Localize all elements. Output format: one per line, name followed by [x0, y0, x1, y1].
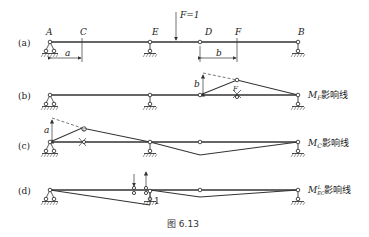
panel-a-label: (a)	[18, 38, 30, 48]
dim-a-label: a	[44, 125, 49, 135]
pin-support-icon	[41, 95, 58, 110]
load-label: F=1	[179, 10, 200, 20]
title-mc: MC影响线	[307, 137, 349, 149]
pin-support-icon	[41, 142, 58, 157]
panel-a: (a) A C E D F B F=1 a b	[18, 10, 305, 62]
pin-support-icon	[41, 190, 58, 205]
title-mec: MECL影响线	[307, 184, 351, 196]
panel-d: (d) 1 MECL影响线	[18, 172, 351, 206]
point-f-label: F	[232, 85, 239, 93]
influence-line-figure: (a) A C E D F B F=1 a b (b)	[0, 0, 369, 237]
roller-support-icon	[291, 142, 305, 157]
dim-b-label: b	[216, 48, 222, 58]
roller-support-icon	[291, 190, 305, 205]
hinge-icon	[148, 40, 152, 44]
point-c-label: C	[80, 27, 87, 37]
roller-support-icon	[291, 95, 305, 110]
hinge-icon	[48, 40, 52, 44]
dim-b-label: b	[194, 79, 200, 89]
hinge-icon	[296, 40, 300, 44]
roller-support-icon	[143, 42, 157, 57]
roller-support-icon	[291, 42, 305, 57]
panel-b-label: (b)	[18, 91, 31, 101]
influence-line	[200, 80, 298, 95]
panel-c: (c) a C MC影响线	[18, 118, 349, 157]
point-b-label: B	[297, 27, 305, 37]
roller-support-icon	[143, 95, 157, 110]
point-a-label: A	[45, 27, 53, 37]
panel-d-label: (d)	[18, 186, 31, 196]
point-f-label: F	[234, 27, 242, 37]
point-d-label: D	[204, 27, 212, 37]
dim-a-label: a	[65, 48, 70, 58]
pin-support-icon	[41, 42, 58, 57]
point-e-label: E	[151, 27, 159, 37]
point-c-label: C	[83, 127, 86, 132]
unit-value-label: 1	[154, 196, 160, 206]
panel-b: (b) b F MF影响线	[18, 73, 348, 110]
roller-support-icon	[143, 142, 157, 157]
figure-caption: 图 6.13	[167, 219, 199, 229]
title-mf: MF影响线	[307, 89, 348, 101]
influence-line	[150, 190, 298, 197]
panel-c-label: (c)	[18, 141, 30, 151]
hinge-d-icon	[198, 40, 202, 44]
